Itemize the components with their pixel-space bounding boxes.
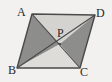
vertex-label-p: P — [57, 27, 64, 39]
intersection-point-p — [59, 43, 61, 45]
vertex-label-b: B — [8, 64, 16, 76]
geometry-figure: A D C B P — [0, 0, 112, 82]
vertex-label-c: C — [80, 66, 88, 78]
vertex-label-d: D — [96, 7, 105, 19]
vertex-label-a: A — [17, 6, 26, 18]
